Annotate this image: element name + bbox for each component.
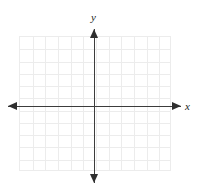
grid-vertical-line bbox=[147, 37, 148, 170]
grid-vertical-line bbox=[33, 37, 34, 170]
y-axis-down-arrow-icon bbox=[90, 174, 98, 183]
grid-vertical-line bbox=[83, 37, 84, 170]
x-axis-right-arrow-icon bbox=[172, 102, 181, 110]
y-axis-line bbox=[94, 29, 95, 183]
grid-vertical-line bbox=[71, 37, 72, 170]
grid-vertical-line bbox=[109, 37, 110, 170]
y-axis-label: y bbox=[91, 12, 96, 23]
x-axis-label: x bbox=[185, 101, 190, 112]
grid-vertical-line bbox=[58, 37, 59, 170]
y-axis-up-arrow-icon bbox=[90, 29, 98, 38]
grid-vertical-line bbox=[45, 37, 46, 170]
coordinate-plane-figure: x y bbox=[0, 0, 200, 189]
grid-vertical-line bbox=[159, 37, 160, 170]
grid-vertical-line bbox=[121, 37, 122, 170]
grid-vertical-line bbox=[96, 37, 97, 170]
x-axis-left-arrow-icon bbox=[8, 102, 17, 110]
grid-vertical-line bbox=[134, 37, 135, 170]
